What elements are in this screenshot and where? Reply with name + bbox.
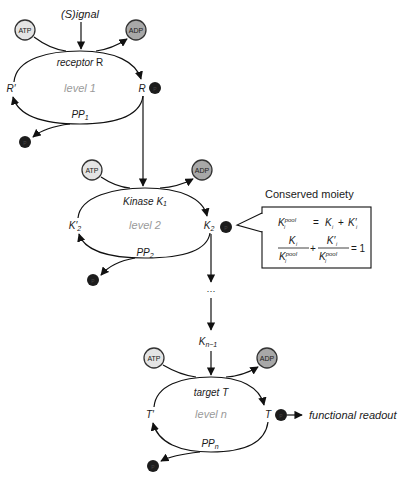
phosphatase-label: PP2 — [136, 247, 153, 259]
svg-text:ADP: ADP — [260, 355, 275, 362]
signaling-cascade-diagram: (S)ignal ATP ADP receptor R level 1 R′ R… — [0, 0, 410, 486]
released-phosphate-icon: P — [19, 136, 31, 148]
svg-text:+: + — [338, 217, 344, 228]
atp-node: ATP — [15, 20, 35, 40]
phosphatase-label: PPn — [201, 438, 218, 450]
svg-text:ADP: ADP — [195, 167, 210, 174]
phosphate-icon: P — [149, 82, 161, 94]
phosphate-release-arrow — [33, 124, 70, 137]
atp-in-arrow — [34, 37, 66, 51]
adp-out-arrow — [226, 367, 258, 377]
inactive-species-label: K′2 — [69, 220, 82, 232]
ellipsis: ··· — [207, 286, 216, 296]
svg-text:ATP: ATP — [147, 355, 160, 362]
released-phosphate-icon: P — [87, 274, 99, 286]
active-species-label: T — [265, 409, 272, 420]
level-2-cycle: ATP ADP Kinase K1 level 2 K′2 K2 P PP2 P… — [69, 160, 232, 375]
functional-readout-label: functional readout — [309, 409, 397, 421]
atp-node: ATP — [82, 160, 102, 180]
phosphate-icon: P — [220, 221, 232, 233]
phosphate-icon: P — [275, 409, 287, 421]
active-species-label: R — [138, 83, 145, 94]
level-label: level n — [195, 408, 227, 420]
target-label: target T — [194, 387, 229, 398]
svg-text:K′: K′ — [327, 235, 337, 246]
signal-label: (S)ignal — [61, 8, 99, 20]
adp-out-arrow — [160, 179, 193, 188]
atp-in-arrow — [101, 177, 130, 188]
svg-text:ADP: ADP — [129, 27, 144, 34]
phosphate-release-arrow — [101, 258, 135, 275]
adp-node: ADP — [126, 20, 146, 40]
svg-text:=: = — [313, 217, 319, 228]
phosphatase-label: PP1 — [71, 109, 88, 121]
svg-text:ATP: ATP — [85, 167, 98, 174]
released-phosphate-icon: P — [147, 460, 159, 472]
svg-text:= 1: = 1 — [351, 243, 366, 254]
intermediate-kinase-label: Kn−1 — [199, 336, 218, 348]
inactive-species-label: R′ — [6, 83, 16, 94]
inactive-species-label: T′ — [146, 409, 155, 420]
adp-node: ADP — [192, 160, 212, 180]
callout-pointer — [237, 213, 262, 232]
atp-in-arrow — [163, 365, 196, 377]
level-label: level 2 — [129, 219, 161, 231]
adp-node: ADP — [257, 348, 277, 368]
svg-text:+: + — [310, 243, 316, 254]
active-species-label: K2 — [204, 220, 215, 232]
level-n-cycle: ATP ADP target T level n T′ T P function… — [144, 348, 397, 472]
level-1-cycle: (S)ignal ATP ADP receptor R level 1 R′ R… — [6, 8, 161, 186]
adp-out-arrow — [96, 39, 127, 51]
svg-text:ATP: ATP — [18, 27, 31, 34]
level-label: level 1 — [64, 82, 96, 94]
conserved-moiety-callout: Conserved moiety Kpool i = K i + K′ i K … — [237, 188, 371, 268]
receptor-label: receptor R — [57, 57, 104, 68]
atp-node: ATP — [144, 348, 164, 368]
kinase-label: Kinase K1 — [123, 196, 167, 207]
conserved-moiety-title: Conserved moiety — [265, 188, 354, 200]
phosphate-release-arrow — [161, 452, 200, 461]
